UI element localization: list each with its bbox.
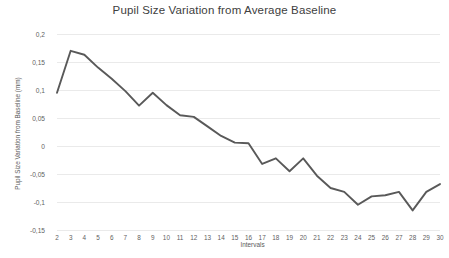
x-axis-tick-label: 21 [313,234,320,241]
y-axis-tick-label: 0,1 [5,87,45,94]
x-axis-tick-label: 29 [423,234,430,241]
x-axis-tick-label: 5 [96,234,100,241]
x-axis-tick-label: 17 [259,234,266,241]
x-axis-tick-label: 2 [55,234,59,241]
x-axis-tick-label: 15 [231,234,238,241]
y-axis-tick-label: -0,1 [5,199,45,206]
plot-area: 0,20,150,10,050-0,05-0,1-0,15 2345678910… [57,34,440,230]
x-axis-title: Intervals [60,241,445,248]
series-line-pupil-size-variation [57,34,440,230]
y-axis-tick-label: -0,15 [5,227,45,234]
chart-title: Pupil Size Variation from Average Baseli… [0,4,449,16]
x-axis-tick-label: 16 [245,234,252,241]
x-axis-tick-label: 25 [368,234,375,241]
x-axis-tick-label: 27 [395,234,402,241]
x-axis-tick-label: 20 [300,234,307,241]
x-axis-tick-label: 9 [151,234,155,241]
x-axis-tick-label: 28 [409,234,416,241]
x-axis-tick-label: 12 [190,234,197,241]
x-axis-tick-label: 22 [327,234,334,241]
x-axis-tick-label: 24 [354,234,361,241]
chart-container: Pupil Size Variation from Average Baseli… [0,0,449,258]
x-axis-tick-label: 10 [163,234,170,241]
x-axis-tick-label: 13 [204,234,211,241]
x-axis-tick-label: 19 [286,234,293,241]
y-axis-tick-label: 0,15 [5,59,45,66]
x-axis-tick-label: 3 [69,234,73,241]
x-axis-tick-label: 8 [137,234,141,241]
x-axis-tick-label: 23 [341,234,348,241]
x-axis-tick-label: 18 [272,234,279,241]
gridline [57,230,440,231]
y-axis-title: Pupil Size Variation from Baseline (mm) [14,59,21,209]
x-axis-tick-label: 26 [382,234,389,241]
y-axis-tick-label: 0 [5,143,45,150]
y-axis-tick-label: 0,2 [5,31,45,38]
y-axis-tick-label: 0,05 [5,115,45,122]
y-axis-tick-label: -0,05 [5,171,45,178]
x-axis-tick-label: 6 [110,234,114,241]
x-axis-tick-label: 14 [218,234,225,241]
x-axis-tick-label: 7 [124,234,128,241]
x-axis-tick-label: 11 [177,234,184,241]
x-axis-tick-label: 30 [436,234,443,241]
x-axis-tick-label: 4 [83,234,87,241]
